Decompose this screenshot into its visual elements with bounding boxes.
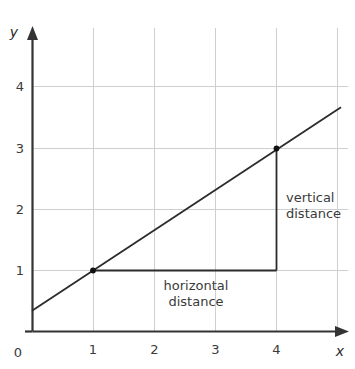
x-tick-label-4: 4 xyxy=(272,342,280,357)
coordinate-plane-svg: 1 2 3 4 1 2 3 4 0 y x horizontal distanc… xyxy=(0,0,355,369)
chart-background xyxy=(0,0,355,369)
data-point-4-3 xyxy=(274,146,280,152)
vertical-distance-annotation: vertical distance xyxy=(286,190,341,221)
horizontal-distance-label-line2: distance xyxy=(168,294,223,309)
y-tick-label-2: 2 xyxy=(16,202,24,217)
y-tick-label-4: 4 xyxy=(16,79,24,94)
y-axis-label: y xyxy=(9,24,19,40)
vertical-distance-label-line2: distance xyxy=(286,206,341,221)
horizontal-distance-label-line1: horizontal xyxy=(164,278,229,293)
x-tick-label-1: 1 xyxy=(89,342,97,357)
horizontal-distance-annotation: horizontal distance xyxy=(164,278,229,309)
x-axis-label: x xyxy=(335,343,345,359)
x-tick-label-2: 2 xyxy=(150,342,158,357)
data-point-1-1 xyxy=(90,268,96,274)
y-tick-label-1: 1 xyxy=(16,263,24,278)
origin-label: 0 xyxy=(14,345,22,360)
y-tick-label-3: 3 xyxy=(16,141,24,156)
x-tick-label-3: 3 xyxy=(211,342,219,357)
chart-figure: 1 2 3 4 1 2 3 4 0 y x horizontal distanc… xyxy=(0,0,355,369)
vertical-distance-label-line1: vertical xyxy=(286,190,334,205)
